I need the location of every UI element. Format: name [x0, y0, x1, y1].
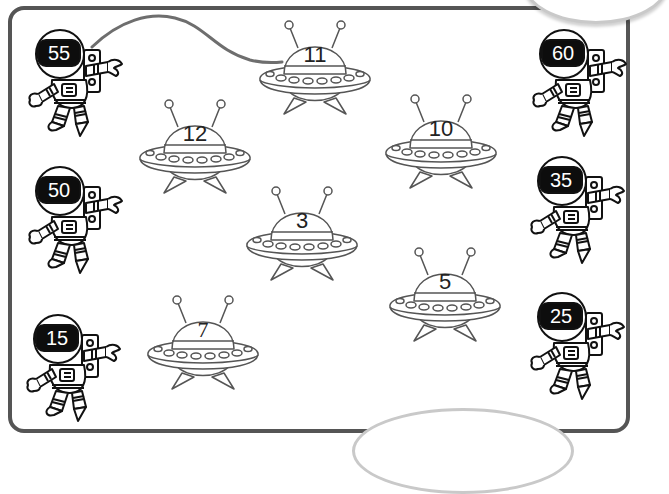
ufo-number: 7 [198, 317, 209, 342]
ufo-11[interactable]: 11 [258, 18, 372, 120]
astronaut-number: 35 [550, 169, 572, 191]
astronaut-15[interactable]: 15 [22, 313, 122, 421]
ufo-number: 10 [429, 116, 453, 141]
ufo-10[interactable]: 10 [384, 92, 498, 194]
ufo-12[interactable]: 12 [138, 97, 252, 199]
astronaut-icon: 35 [526, 155, 626, 263]
ufo-7[interactable]: 7 [146, 293, 260, 395]
astronaut-icon: 25 [526, 291, 626, 399]
astronaut-icon: 55 [24, 28, 124, 136]
astronaut-25[interactable]: 25 [526, 291, 626, 399]
ufo-icon: 11 [258, 18, 372, 120]
ufo-icon: 3 [245, 184, 359, 286]
ufo-number: 3 [296, 208, 308, 233]
astronaut-number: 50 [48, 179, 70, 201]
astronaut-35[interactable]: 35 [526, 155, 626, 263]
astronaut-55[interactable]: 55 [24, 28, 124, 136]
ufo-number: 11 [304, 42, 327, 67]
ufo-3[interactable]: 3 [245, 184, 359, 286]
astronaut-number: 25 [550, 305, 572, 327]
astronaut-50[interactable]: 50 [24, 165, 124, 273]
ufo-icon: 5 [388, 245, 502, 347]
astronaut-number: 15 [46, 327, 68, 349]
astronaut-number: 55 [48, 42, 70, 64]
astronaut-number: 60 [552, 42, 574, 64]
bottom-bump-decoration [352, 408, 574, 494]
ufo-number: 12 [183, 121, 207, 146]
ufo-5[interactable]: 5 [388, 245, 502, 347]
ufo-icon: 10 [384, 92, 498, 194]
astronaut-icon: 15 [22, 313, 122, 421]
astronaut-icon: 50 [24, 165, 124, 273]
ufo-number: 5 [439, 269, 451, 294]
astronaut-60[interactable]: 60 [528, 28, 628, 136]
ufo-icon: 7 [146, 293, 260, 395]
astronaut-icon: 60 [528, 28, 628, 136]
ufo-icon: 12 [138, 97, 252, 199]
